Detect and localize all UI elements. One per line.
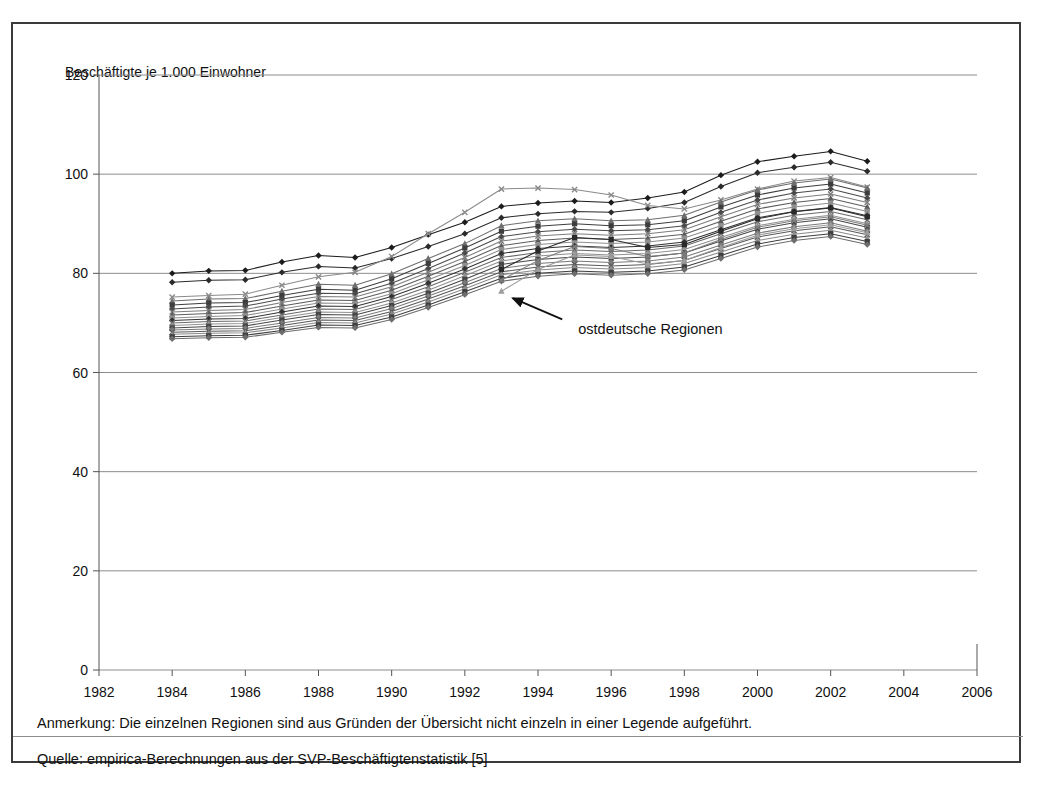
data-point-marker <box>535 200 541 206</box>
data-point-marker <box>681 189 687 195</box>
x-tick-label: 1990 <box>376 684 407 700</box>
data-point-marker <box>388 244 394 250</box>
data-point-marker <box>827 176 833 182</box>
data-point-marker <box>718 229 723 234</box>
data-point-marker <box>865 214 870 219</box>
x-tick-label: 2006 <box>961 684 992 700</box>
series-2 <box>169 159 870 285</box>
data-point-marker <box>609 237 614 242</box>
data-point-marker <box>279 269 285 275</box>
data-point-marker <box>791 153 797 159</box>
data-point-marker <box>645 245 650 250</box>
data-point-marker <box>754 159 760 165</box>
data-point-marker <box>827 159 833 165</box>
data-point-marker <box>425 243 431 249</box>
data-point-marker <box>498 288 504 294</box>
data-point-marker <box>791 209 796 214</box>
data-point-marker <box>315 263 321 269</box>
data-point-marker <box>571 208 577 214</box>
data-point-marker <box>718 183 724 189</box>
data-point-marker <box>169 279 175 285</box>
data-point-marker <box>535 224 540 229</box>
data-point-marker <box>608 199 614 205</box>
series-line <box>172 194 867 312</box>
data-point-marker <box>681 199 687 205</box>
data-point-marker <box>499 229 504 234</box>
data-point-marker <box>754 169 760 175</box>
data-point-marker <box>462 230 468 236</box>
data-point-marker <box>791 164 797 170</box>
data-point-marker <box>571 198 577 204</box>
series-5 <box>170 181 870 307</box>
x-tick-label: 1992 <box>449 684 480 700</box>
data-point-marker <box>498 203 504 209</box>
data-point-marker <box>535 211 541 217</box>
note-divider <box>13 736 1023 737</box>
data-point-marker <box>608 209 614 215</box>
x-tick-label: 1996 <box>596 684 627 700</box>
data-point-marker <box>718 172 724 178</box>
chart-source: Quelle: empirica-Berechnungen aus der SV… <box>37 751 488 767</box>
data-point-marker <box>315 252 321 258</box>
y-tick-label: 120 <box>65 67 89 83</box>
data-point-marker <box>462 240 468 246</box>
y-tick-label: 80 <box>72 265 88 281</box>
series-8 <box>169 195 870 318</box>
data-point-marker <box>718 204 723 209</box>
x-tick-label: 1982 <box>83 684 114 700</box>
chart-area: Beschäftigte je 1.000 Einwohner 02040608… <box>13 24 1023 765</box>
x-tick-label: 2002 <box>815 684 846 700</box>
y-tick-label: 0 <box>80 662 88 678</box>
series-7 <box>170 191 870 314</box>
data-point-marker <box>499 267 504 272</box>
y-tick-label: 20 <box>72 563 88 579</box>
annotation-arrow <box>513 298 563 319</box>
data-point-marker <box>169 270 175 276</box>
series-line <box>172 234 867 337</box>
line-chart-plot: 0204060801001201982198419861988199019921… <box>13 24 1023 704</box>
data-point-marker <box>206 277 212 283</box>
x-tick-label: 2000 <box>742 684 773 700</box>
data-point-marker <box>498 215 504 221</box>
data-point-marker <box>864 158 870 164</box>
series-line <box>172 189 867 309</box>
figure-frame: Beschäftigte je 1.000 Einwohner 02040608… <box>11 22 1021 763</box>
x-tick-label: 2004 <box>888 684 919 700</box>
data-point-marker <box>572 235 577 240</box>
data-point-marker <box>242 267 248 273</box>
data-point-marker <box>827 148 833 154</box>
data-point-marker <box>864 168 870 174</box>
data-point-marker <box>462 210 467 215</box>
data-point-marker <box>828 205 833 210</box>
y-tick-label: 40 <box>72 464 88 480</box>
data-point-marker <box>462 219 468 225</box>
series-line <box>172 162 867 282</box>
y-tick-label: 60 <box>72 365 88 381</box>
x-tick-label: 1994 <box>522 684 553 700</box>
data-point-marker <box>242 277 248 283</box>
data-point-marker <box>535 248 540 253</box>
data-point-marker <box>571 215 577 221</box>
data-point-marker <box>352 254 358 260</box>
y-tick-label: 100 <box>65 166 89 182</box>
series-18 <box>169 233 870 342</box>
series-line <box>172 227 867 333</box>
data-point-marker <box>279 259 285 265</box>
x-tick-label: 1984 <box>157 684 188 700</box>
data-point-marker <box>682 242 687 247</box>
data-point-marker <box>572 221 577 226</box>
x-tick-label: 1986 <box>230 684 261 700</box>
chart-note: Anmerkung: Die einzelnen Regionen sind a… <box>37 715 752 731</box>
x-tick-label: 1998 <box>669 684 700 700</box>
x-tick-label: 1988 <box>303 684 334 700</box>
data-point-marker <box>645 195 651 201</box>
data-point-marker <box>755 216 760 221</box>
annotation-label: ostdeutsche Regionen <box>578 321 722 337</box>
